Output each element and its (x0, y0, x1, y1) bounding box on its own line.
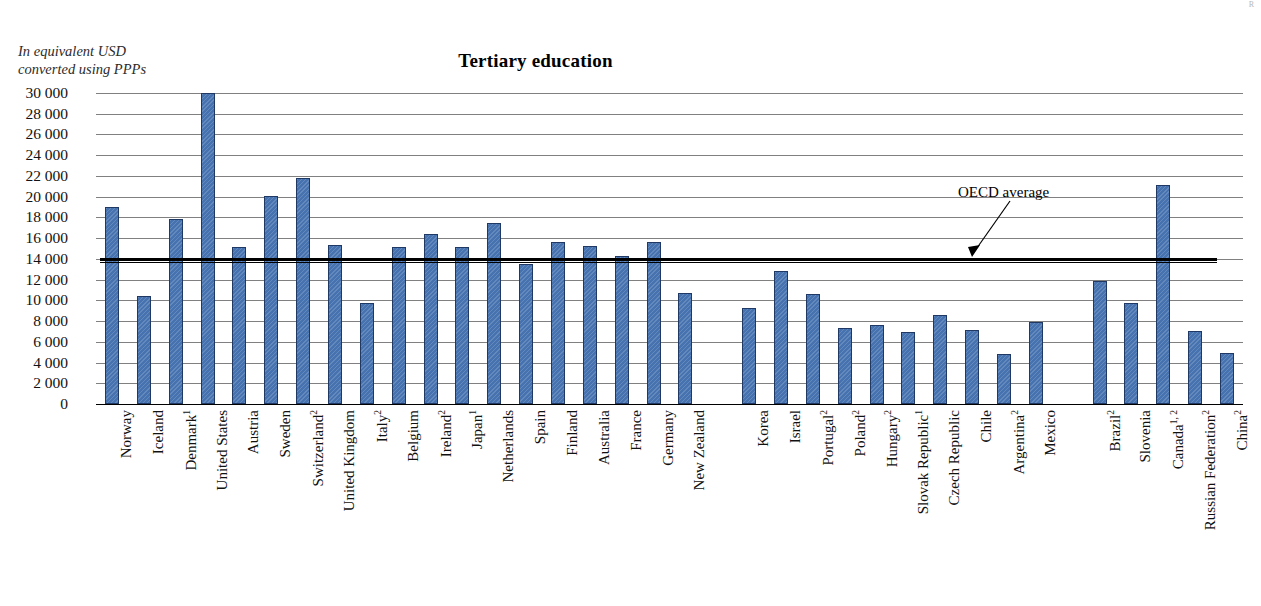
x-axis-category-label: Ireland2 (437, 410, 455, 457)
plot-area: 30 00028 00026 00024 00022 00020 00018 0… (96, 93, 1243, 404)
x-axis-category-label: Argentina2 (1010, 410, 1028, 474)
x-axis-category-label: Korea (755, 410, 772, 447)
x-axis-category-label: Czech Republic (946, 410, 963, 505)
x-axis-category-label: Italy2 (373, 410, 391, 442)
bar (137, 296, 151, 404)
chart-title: Tertiary education (0, 50, 1261, 72)
bar (647, 242, 661, 404)
y-axis-tick-label: 0 (0, 395, 68, 413)
y-axis-tick-label: 20 000 (0, 188, 68, 206)
bar (1156, 185, 1170, 404)
bar (519, 264, 533, 404)
y-axis-tick-label: 24 000 (0, 146, 68, 164)
bar (201, 93, 215, 404)
x-axis-category-label: Switzerland2 (309, 410, 327, 486)
gridline (96, 93, 1243, 94)
x-axis-category-label: Portugal2 (819, 410, 837, 466)
bar (455, 247, 469, 404)
x-axis-category-label: Brazil2 (1106, 410, 1124, 451)
y-axis-tick-label: 2 000 (0, 374, 68, 392)
bar (232, 247, 246, 404)
x-axis-category-label: Australia (596, 410, 613, 465)
x-axis-category-label: Belgium (405, 410, 422, 462)
x-axis-category-label: Slovak Republic1 (914, 410, 932, 514)
y-axis-tick-label: 30 000 (0, 84, 68, 102)
bar (901, 332, 915, 404)
x-axis-category-label: Hungary2 (883, 410, 901, 467)
x-axis-category-label: Slovenia (1137, 410, 1154, 463)
bar (933, 315, 947, 404)
oecd-average-line (100, 258, 1217, 261)
y-axis-tick-label: 10 000 (0, 291, 68, 309)
x-axis-category-label: Russian Federation2 (1201, 410, 1219, 530)
bar (1220, 353, 1234, 404)
gridline (96, 134, 1243, 135)
y-axis-tick-label: 22 000 (0, 167, 68, 185)
x-axis-category-label: Finland (564, 410, 581, 456)
x-axis-category-label: Chile (978, 410, 995, 443)
bar (583, 246, 597, 404)
bar (392, 247, 406, 404)
x-axis-category-label: Iceland (150, 410, 167, 454)
bar (806, 294, 820, 404)
x-axis-category-label: Mexico (1042, 410, 1059, 456)
x-axis-category-label: Norway (118, 410, 135, 458)
corner-mark: R (1249, 0, 1254, 9)
bar (774, 271, 788, 404)
bar (487, 223, 501, 404)
x-axis-category-label: Denmark1 (182, 410, 200, 471)
y-axis-tick-label: 26 000 (0, 125, 68, 143)
gridline (96, 114, 1243, 115)
bar (870, 325, 884, 404)
x-axis-category-label: Poland2 (851, 410, 869, 456)
chart-figure: R In equivalent USD converted using PPPs… (0, 0, 1261, 606)
y-axis-tick-label: 12 000 (0, 271, 68, 289)
y-axis-tick-label: 28 000 (0, 105, 68, 123)
y-axis-tick-label: 16 000 (0, 229, 68, 247)
bar (965, 330, 979, 404)
bar (264, 196, 278, 404)
bar (328, 245, 342, 404)
y-axis-tick-label: 18 000 (0, 208, 68, 226)
bar (1188, 331, 1202, 404)
x-axis-category-label: Spain (532, 410, 549, 444)
x-axis-category-label: Canada1, 2 (1169, 410, 1187, 469)
oecd-average-line-shadow (100, 262, 1217, 263)
y-axis-tick-label: 14 000 (0, 250, 68, 268)
y-axis-tick-label: 6 000 (0, 333, 68, 351)
bar (997, 354, 1011, 404)
bar (742, 308, 756, 404)
bar (1029, 322, 1043, 404)
x-axis-category-label: Austria (245, 410, 262, 454)
x-axis-category-label: Japan1 (468, 410, 486, 449)
x-axis-category-label: France (628, 410, 645, 451)
x-axis-category-label: Germany (660, 410, 677, 466)
bar (105, 207, 119, 404)
gridline (96, 155, 1243, 156)
bar (678, 293, 692, 404)
bar (838, 328, 852, 404)
bar (1124, 303, 1138, 404)
y-axis-tick-label: 8 000 (0, 312, 68, 330)
bar (1093, 281, 1107, 404)
x-axis-category-label: Netherlands (500, 410, 517, 482)
bar (296, 178, 310, 404)
x-axis-category-label: Sweden (277, 410, 294, 458)
chart-title-text: Tertiary education (458, 50, 612, 71)
bar (551, 242, 565, 404)
x-axis-category-label: Israel (787, 410, 804, 443)
y-axis-tick-label: 4 000 (0, 354, 68, 372)
x-axis-category-label: New Zealand (691, 410, 708, 490)
x-axis-category-label: United States (214, 410, 231, 490)
gridline (96, 176, 1243, 177)
bar (169, 219, 183, 404)
bar (360, 303, 374, 404)
oecd-average-arrow-icon (962, 199, 1032, 265)
x-axis-category-label: China2 (1233, 410, 1251, 451)
x-axis-labels: NorwayIcelandDenmark1United StatesAustri… (96, 404, 1243, 604)
bar (615, 256, 629, 404)
x-axis-category-label: United Kingdom (341, 410, 358, 511)
